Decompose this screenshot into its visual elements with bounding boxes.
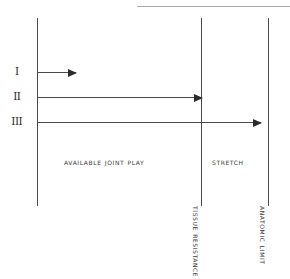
grade-2-numeral: II (13, 91, 20, 102)
page-edge-artifact (137, 6, 290, 7)
zone-label-available-joint-play: Available Joint Play (64, 158, 144, 167)
boundary-line-start (37, 18, 38, 206)
grade-1-numeral: I (15, 66, 19, 77)
boundary-line-tissue (201, 18, 202, 206)
zone-label-stretch: Stretch (212, 158, 244, 167)
boundary-label-anatomic-limit: Anatomic Limit (259, 206, 268, 265)
grade-1-arrow (37, 72, 76, 73)
grade-3-arrow (37, 122, 261, 123)
diagram-canvas: I II III Available Joint Play Stretch Ti… (0, 0, 290, 279)
boundary-label-tissue-resistance: Tissue Resistance (192, 206, 201, 277)
boundary-line-anatomic-limit (268, 18, 269, 206)
grade-3-numeral: III (11, 116, 22, 127)
grade-2-arrow (37, 97, 202, 98)
